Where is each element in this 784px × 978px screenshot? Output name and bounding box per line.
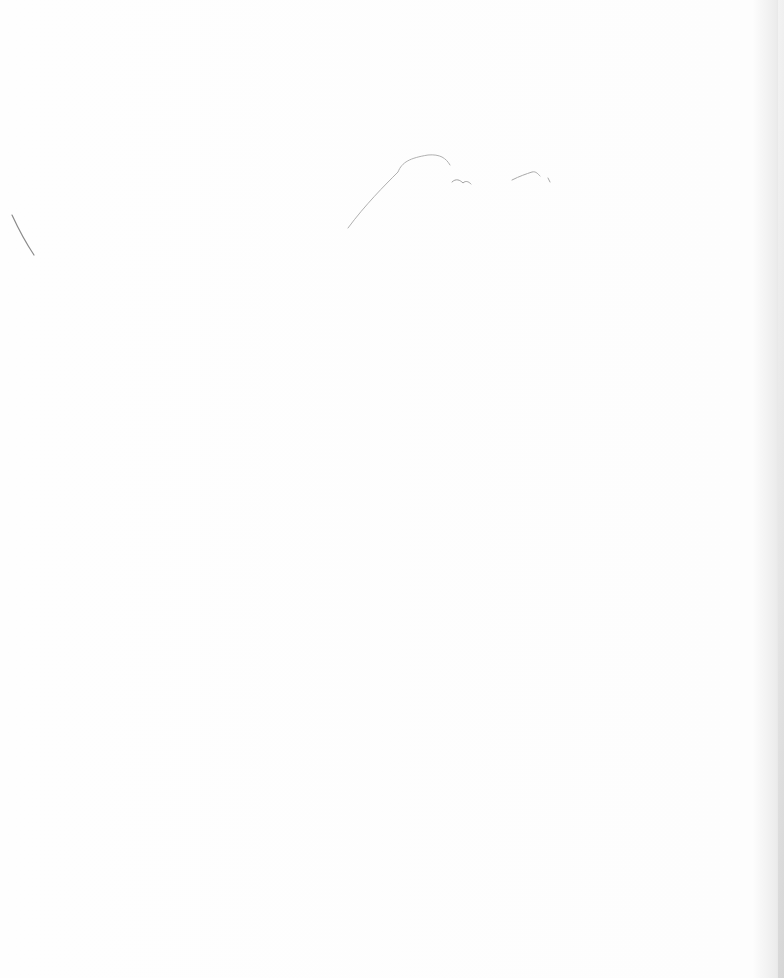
pencil-squiggle-2: [512, 172, 550, 182]
pencil-marks: [0, 0, 784, 978]
pencil-squiggle-1: [452, 180, 471, 184]
pencil-stroke-left: [12, 215, 34, 255]
blank-page: [0, 0, 784, 978]
pencil-stroke-top-curve: [348, 155, 450, 228]
